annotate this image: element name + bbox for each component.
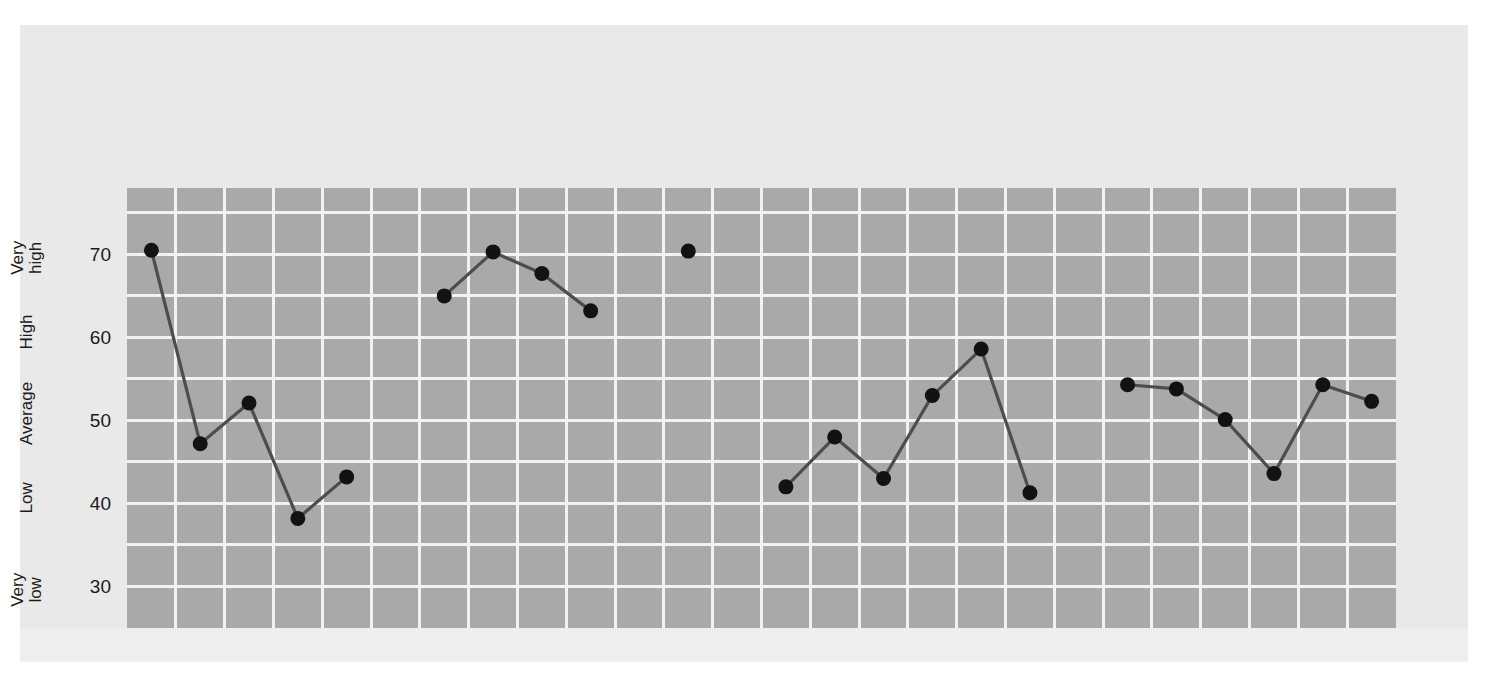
chart-page: Neuroticism (N)Extraversion (E)Openness …: [0, 0, 1488, 685]
line-segment: [542, 274, 591, 311]
x-axis-labels: Neuroticism (N)Extraversion (E)Openness …: [0, 0, 1488, 188]
data-point-excitement-seeking-e5[interactable]: [974, 342, 989, 357]
data-point-self-consciousness-n4[interactable]: [583, 303, 598, 318]
line-segment: [835, 437, 884, 479]
line-segment: [786, 437, 835, 487]
data-point-activity-e4[interactable]: [925, 388, 940, 403]
line-segment: [493, 252, 542, 274]
y-band-label-very-high: Very high: [9, 228, 45, 288]
y-band-label-average: Average: [18, 385, 36, 445]
plot-area: [127, 188, 1396, 628]
y-tick-label-40: 40: [59, 494, 111, 513]
footer-strip: [20, 628, 1468, 662]
line-segment: [200, 403, 249, 444]
data-point-vulnerability-n6[interactable]: [681, 244, 696, 259]
line-segment: [1323, 385, 1372, 402]
y-tick-label-50: 50: [59, 411, 111, 430]
y-band-label-very-low: Very low: [9, 560, 45, 620]
data-series: [127, 188, 1396, 628]
line-segment: [1225, 420, 1274, 474]
line-segment: [249, 403, 298, 518]
y-band-label-low: Low: [18, 468, 36, 528]
data-point-assertiveness-e3[interactable]: [876, 471, 891, 486]
data-point-agreeableness-a[interactable]: [290, 511, 305, 526]
line-segment: [932, 349, 981, 395]
data-point-warmth-e1[interactable]: [778, 479, 793, 494]
data-point-depression-n3[interactable]: [534, 266, 549, 281]
line-segment: [884, 396, 933, 479]
data-point-positive-emotions-e6[interactable]: [1022, 485, 1037, 500]
line-segment: [444, 252, 493, 296]
data-point-neuroticism-n[interactable]: [144, 243, 159, 258]
y-tick-label-70: 70: [59, 245, 111, 264]
y-tick-label-30: 30: [59, 577, 111, 596]
data-point-openness-o[interactable]: [242, 396, 257, 411]
line-segment: [1274, 385, 1323, 474]
data-point-ideas-o5[interactable]: [1315, 377, 1330, 392]
line-segment: [1176, 389, 1225, 420]
line-segment: [298, 477, 347, 519]
data-point-aesthetics-o2[interactable]: [1169, 381, 1184, 396]
y-band-label-high: High: [18, 302, 36, 362]
data-point-anxiety-n1[interactable]: [437, 288, 452, 303]
data-point-actions-o4[interactable]: [1266, 466, 1281, 481]
data-point-values-o6[interactable]: [1364, 394, 1379, 409]
line-segment: [981, 349, 1030, 493]
data-point-conscientiousnes-c[interactable]: [339, 469, 354, 484]
line-segment: [151, 250, 200, 443]
y-tick-label-60: 60: [59, 328, 111, 347]
data-point-extraversion-e[interactable]: [193, 436, 208, 451]
data-point-gregariousness-e2[interactable]: [827, 430, 842, 445]
data-point-fantasy-o1[interactable]: [1120, 377, 1135, 392]
data-point-feelings-o3[interactable]: [1218, 412, 1233, 427]
data-point-hostility-n2[interactable]: [486, 244, 501, 259]
